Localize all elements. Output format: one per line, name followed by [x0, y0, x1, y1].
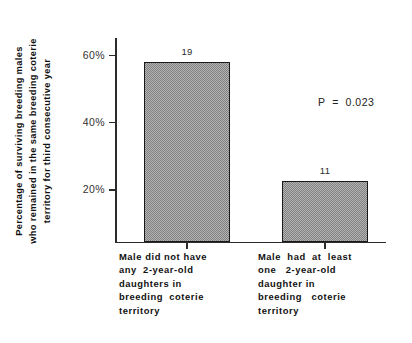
p-value-annotation: P = 0.023	[318, 96, 374, 108]
y-tick-label-20: 20%	[63, 183, 105, 195]
bar-value-1: 11	[282, 165, 368, 176]
plot-area: 19 11	[115, 38, 386, 243]
y-tick-60	[109, 55, 116, 57]
bar-value-0: 19	[144, 46, 230, 57]
y-tick-label-40: 40%	[63, 116, 105, 128]
x-tick-0	[186, 242, 188, 249]
bar-has-daughter	[282, 181, 368, 242]
bar-no-daughters	[144, 62, 230, 242]
y-tick-20	[109, 189, 116, 191]
y-axis-title-text: Percentage of surviving breeding males w…	[12, 38, 55, 244]
bar-chart: Percentage of surviving breeding males w…	[0, 0, 412, 343]
x-category-label-1: Male had at least one 2-year-old daughte…	[258, 250, 408, 317]
y-tick-label-60: 60%	[63, 49, 105, 61]
x-category-label-0: Male did not have any 2-year-old daughte…	[119, 250, 269, 317]
x-tick-1	[324, 242, 326, 249]
x-axis-line	[115, 242, 386, 244]
y-tick-40	[109, 122, 116, 124]
y-axis-line	[115, 38, 117, 243]
y-axis-title: Percentage of surviving breeding males w…	[4, 0, 62, 286]
